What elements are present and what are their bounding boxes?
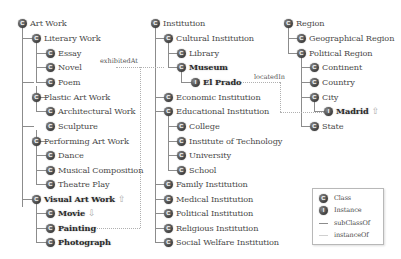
tree-line xyxy=(36,203,37,243)
class-icon: C xyxy=(284,19,293,28)
node-label: Museum xyxy=(189,62,228,72)
node-medical-institution[interactable]: C Medical Institution xyxy=(164,193,253,205)
up-arrow-icon: ⇧ xyxy=(118,194,126,204)
node-label: Plastic Art Work xyxy=(44,92,110,102)
node-label: Social Welfare Institution xyxy=(176,237,279,247)
class-icon: C xyxy=(46,49,55,58)
node-political-institution[interactable]: C Political Institution xyxy=(164,207,253,219)
node-label: Dance xyxy=(58,150,84,160)
class-icon: C xyxy=(177,137,186,146)
node-school[interactable]: C School xyxy=(177,164,216,176)
node-dance[interactable]: C Dance xyxy=(46,149,84,161)
legend-label: Class xyxy=(334,194,351,202)
node-plastic-art-work[interactable]: C Plastic Art Work xyxy=(32,91,110,103)
node-madrid[interactable]: I Madrid ⇧ xyxy=(324,105,379,117)
tree-line xyxy=(155,27,156,243)
node-movie[interactable]: C Movie ⇩ xyxy=(46,207,96,219)
class-icon: C xyxy=(297,34,306,43)
node-art-work[interactable]: C Art Work xyxy=(18,17,67,29)
node-painting[interactable]: C Painting xyxy=(46,222,96,234)
node-museum[interactable]: C Museum xyxy=(177,61,228,73)
class-icon: C xyxy=(297,49,306,58)
class-icon: C xyxy=(177,122,186,131)
legend-label: instanceOf xyxy=(334,231,369,239)
node-geographical-region[interactable]: C Geographical Region xyxy=(297,32,394,44)
node-library[interactable]: C Library xyxy=(177,47,219,59)
node-continent[interactable]: C Continent xyxy=(310,61,362,73)
class-icon: C xyxy=(164,224,173,233)
up-arrow-icon: ⇧ xyxy=(372,106,380,116)
node-label: Country xyxy=(322,77,355,87)
node-visual-art-work[interactable]: C Visual Art Work ⇧ xyxy=(32,193,125,205)
node-family-institution[interactable]: C Family Institution xyxy=(164,178,248,190)
node-label: El Prado xyxy=(203,77,241,87)
node-essay[interactable]: C Essay xyxy=(46,47,81,59)
node-label: Architectural Work xyxy=(58,106,135,116)
class-icon: C xyxy=(164,238,173,247)
class-icon: C xyxy=(164,107,173,116)
tree-line xyxy=(168,115,169,170)
node-region[interactable]: C Region xyxy=(284,17,324,29)
node-architectural-work[interactable]: C Architectural Work xyxy=(46,105,135,117)
node-photograph[interactable]: C Photograph xyxy=(46,236,111,248)
legend-instance: I Instance xyxy=(319,205,361,215)
class-icon: C xyxy=(18,19,27,28)
located-in-line xyxy=(280,82,281,112)
node-institution[interactable]: C Institution xyxy=(151,17,205,29)
class-icon: C xyxy=(164,209,173,218)
tree-line xyxy=(22,126,34,127)
node-label: Sculpture xyxy=(58,121,98,131)
node-label: Musical Composition xyxy=(58,165,143,175)
node-social-welfare-institution[interactable]: C Social Welfare Institution xyxy=(164,236,279,248)
ontology-diagram: exhibitedAt locatedIn C Art Work C Liter… xyxy=(0,0,401,259)
node-religious-institution[interactable]: C Religious Institution xyxy=(164,222,258,234)
node-college[interactable]: C College xyxy=(177,120,220,132)
node-label: Institution xyxy=(163,18,205,28)
tree-line xyxy=(288,27,289,53)
class-icon: C xyxy=(46,224,55,233)
node-political-region[interactable]: C Political Region xyxy=(297,47,372,59)
class-icon: C xyxy=(177,151,186,160)
node-label: Geographical Region xyxy=(309,33,394,43)
node-state[interactable]: C State xyxy=(310,120,343,132)
node-label: Economic Institution xyxy=(176,92,261,102)
node-label: Theatre Play xyxy=(58,179,110,189)
node-novel[interactable]: C Novel xyxy=(46,61,82,73)
class-icon: C xyxy=(310,93,319,102)
legend-instance-of: instanceOf xyxy=(319,230,369,240)
node-theatre-play[interactable]: C Theatre Play xyxy=(46,178,110,190)
node-city[interactable]: C City xyxy=(310,91,338,103)
node-label: Religious Institution xyxy=(176,223,258,233)
subclass-line-icon xyxy=(319,223,328,224)
down-arrow-icon: ⇩ xyxy=(88,208,96,218)
class-icon: C xyxy=(32,195,41,204)
node-performing-art-work[interactable]: C Performing Art Work xyxy=(32,135,129,147)
node-economic-institution[interactable]: C Economic Institution xyxy=(164,91,261,103)
node-educational-institution[interactable]: C Educational Institution xyxy=(164,105,269,117)
node-label: Institute of Technology xyxy=(189,136,282,146)
node-label: Essay xyxy=(58,48,81,58)
node-institute-of-technology[interactable]: C Institute of Technology xyxy=(177,135,282,147)
node-university[interactable]: C University xyxy=(177,149,231,161)
node-musical-composition[interactable]: C Musical Composition xyxy=(46,164,143,176)
class-icon: C xyxy=(164,34,173,43)
exhibited-at-line xyxy=(140,67,141,228)
node-label: Educational Institution xyxy=(176,106,269,116)
class-icon: C xyxy=(177,63,186,72)
node-literary-work[interactable]: C Literary Work xyxy=(32,32,101,44)
node-label: Region xyxy=(296,18,324,28)
tree-line xyxy=(22,82,34,83)
instance-line-icon xyxy=(319,235,328,236)
node-label: Movie xyxy=(58,208,85,218)
node-el-prado[interactable]: I El Prado xyxy=(191,76,241,88)
node-label: Political Institution xyxy=(176,208,253,218)
node-cultural-institution[interactable]: C Cultural Institution xyxy=(164,32,254,44)
node-sculpture[interactable]: C Sculpture xyxy=(46,120,98,132)
node-label: Art Work xyxy=(30,18,67,28)
class-icon: C xyxy=(46,78,55,87)
exhibited-at-line xyxy=(94,228,140,229)
node-poem[interactable]: C Poem xyxy=(46,76,80,88)
class-icon: C xyxy=(151,19,160,28)
node-country[interactable]: C Country xyxy=(310,76,355,88)
node-label: Painting xyxy=(58,223,96,233)
